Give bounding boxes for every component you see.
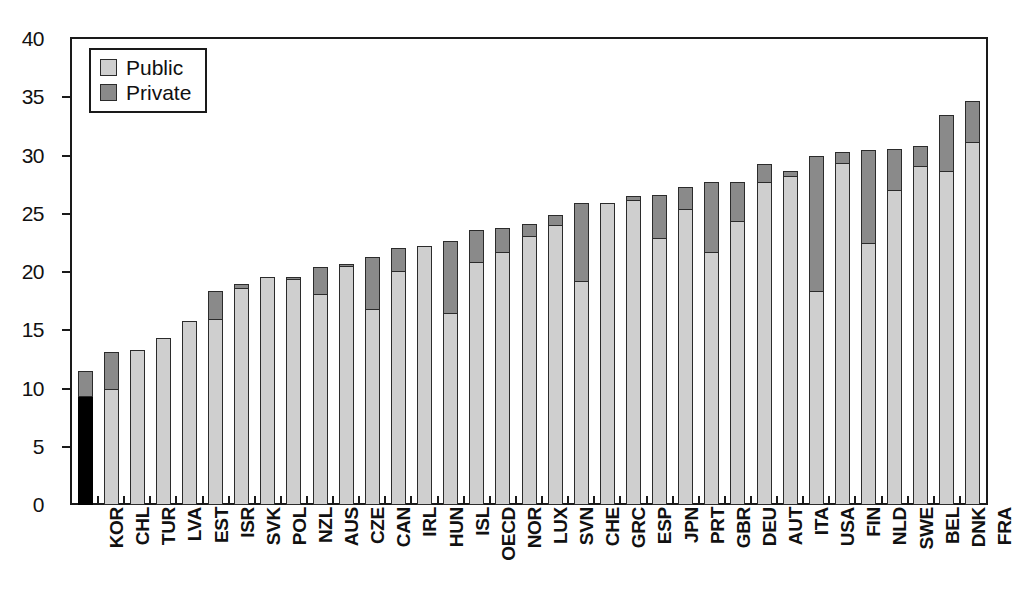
bar-AUS[interactable] [313,39,328,505]
x-tick-label-SWE: SWE [917,507,936,597]
x-tick-mark [724,496,726,505]
bar-segment-public [391,271,406,505]
bar-CAN[interactable] [365,39,380,505]
bar-segment-public [652,238,667,505]
bar-POL[interactable] [260,39,275,505]
bar-PRT[interactable] [678,39,693,505]
bar-HUN[interactable] [417,39,432,505]
bar-ITA[interactable] [783,39,798,505]
x-tick-mark [202,496,204,505]
bar-segment-private [913,146,928,167]
bar-SVN[interactable] [548,39,563,505]
bar-SVK[interactable] [234,39,249,505]
x-tick-label-AUT: AUT [786,507,805,597]
bar-OECD[interactable] [469,39,484,505]
bar-USA[interactable] [809,39,824,505]
x-tick-mark [280,496,282,505]
bar-NZL[interactable] [286,39,301,505]
x-tick-mark [332,496,334,505]
bar-FRA[interactable] [965,39,980,505]
bar-segment-private [522,224,537,237]
x-tick-mark [463,496,465,505]
bar-GRC[interactable] [600,39,615,505]
bar-DNK[interactable] [939,39,954,505]
x-tick-mark [776,496,778,505]
bar-LUX[interactable] [522,39,537,505]
x-tick-mark [593,496,595,505]
bar-segment-public [443,313,458,505]
bar-segment-private [757,164,772,184]
bar-AUT[interactable] [757,39,772,505]
bar-FIN[interactable] [835,39,850,505]
x-tick-mark [175,496,177,505]
bar-segment-private [548,215,563,226]
x-tick-label-SVN: SVN [577,507,596,597]
x-tick-mark [384,496,386,505]
x-tick-label-CAN: CAN [394,507,413,597]
bars-layer [72,39,986,505]
bar-segment-private [678,187,693,210]
bar-segment-public [208,319,223,505]
bar-NOR[interactable] [495,39,510,505]
bar-segment-private [783,171,798,178]
bar-IRL[interactable] [391,39,406,505]
x-tick-mark [437,496,439,505]
bar-segment-private [652,195,667,239]
x-tick-mark [567,496,569,505]
x-tick-label-LUX: LUX [551,507,570,597]
bar-ESP[interactable] [626,39,641,505]
bar-BEL[interactable] [913,39,928,505]
bar-segment-public [495,252,510,505]
bar-JPN[interactable] [652,39,667,505]
bar-segment-public [417,246,432,505]
x-tick-label-JPN: JPN [682,507,701,597]
x-axis-labels: KORCHLTURLVAESTISRSVKPOLNZLAUSCZECANIRLH… [72,507,986,600]
x-tick-label-TUR: TUR [159,507,178,597]
bar-ISR[interactable] [208,39,223,505]
legend-swatch-public-icon [100,59,117,76]
x-tick-mark [828,496,830,505]
bar-segment-private [469,230,484,262]
bar-CZE[interactable] [339,39,354,505]
bar-segment-public [104,389,119,506]
bar-segment-public [522,236,537,505]
bar-segment-private [730,182,745,221]
x-tick-mark [515,496,517,505]
bar-CHE[interactable] [574,39,589,505]
bar-GBR[interactable] [704,39,719,505]
y-tick-label: 0 [33,494,44,515]
x-tick-label-KOR: KOR [107,507,126,597]
x-tick-mark [907,496,909,505]
x-tick-mark [672,496,674,505]
x-tick-label-EST: EST [212,507,231,597]
x-tick-label-DEU: DEU [760,507,779,597]
bar-NLD[interactable] [861,39,876,505]
bar-segment-private [939,115,954,172]
bar-SWE[interactable] [887,39,902,505]
bar-segment-public [783,176,798,505]
bar-segment-public [600,203,615,505]
x-tick-mark [410,496,412,505]
bar-segment-private [234,284,249,290]
x-tick-label-NZL: NZL [316,507,335,597]
x-tick-label-FIN: FIN [864,507,883,597]
x-tick-label-USA: USA [838,507,857,597]
bar-segment-public [182,321,197,505]
bar-segment-public [78,396,93,506]
x-tick-label-BEL: BEL [943,507,962,597]
bar-segment-public [835,163,850,506]
bar-segment-public [339,266,354,505]
bar-segment-private [887,149,902,192]
x-tick-label-NLD: NLD [890,507,909,597]
bar-ISL[interactable] [443,39,458,505]
bar-segment-private [286,277,301,280]
bar-DEU[interactable] [730,39,745,505]
bar-segment-public [704,252,719,505]
legend-item-public: Public [100,55,191,80]
y-tick-label: 5 [33,436,44,457]
bar-segment-private [208,291,223,320]
x-tick-mark [149,496,151,505]
bar-segment-private [835,152,850,163]
bar-segment-public [965,142,980,505]
